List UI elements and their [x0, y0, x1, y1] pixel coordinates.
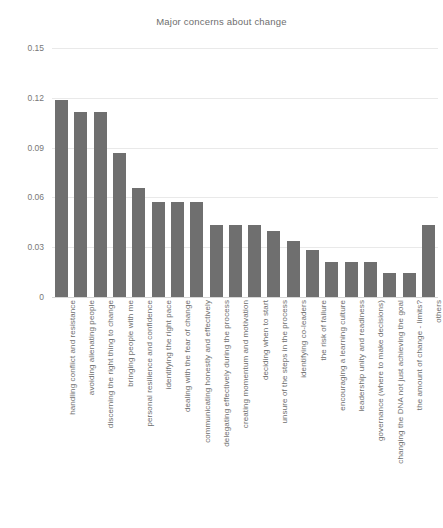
- chart-title: Major concerns about change: [0, 16, 443, 27]
- bar[interactable]: [306, 250, 319, 297]
- bar[interactable]: [152, 202, 165, 297]
- x-tick-label: the amount of change - limits?: [413, 300, 426, 524]
- x-tick-label: bringing people with me: [124, 300, 137, 524]
- x-tick-label: changing the DNA not just achieving the …: [394, 300, 407, 524]
- bar[interactable]: [55, 100, 68, 297]
- y-tick-label: 0.15: [27, 43, 44, 53]
- x-tick-label: creating momentum and motivation: [239, 300, 252, 524]
- x-tick-label: governance (where to make decisions): [374, 300, 387, 524]
- plot-area: 00.030.060.090.120.15: [52, 48, 438, 297]
- bar-chart: Major concerns about change 00.030.060.0…: [0, 0, 443, 528]
- x-tick-label: unsure of the steps in the process: [278, 300, 291, 524]
- bar[interactable]: [210, 225, 223, 297]
- x-tick-label: handling conflict and resistance: [66, 300, 79, 524]
- y-tick-label: 0.06: [27, 192, 44, 202]
- bar[interactable]: [229, 225, 242, 297]
- bar[interactable]: [171, 202, 184, 297]
- y-tick-label: 0.03: [27, 242, 44, 252]
- bar[interactable]: [267, 231, 280, 297]
- x-tick-label: the risk of failure: [317, 300, 330, 524]
- bar[interactable]: [403, 273, 416, 297]
- bar[interactable]: [287, 241, 300, 297]
- x-tick-label: avoiding alienating people: [85, 300, 98, 524]
- bar[interactable]: [190, 202, 203, 297]
- y-tick-label: 0.09: [27, 143, 44, 153]
- bar[interactable]: [422, 225, 435, 297]
- bar[interactable]: [132, 188, 145, 297]
- bar[interactable]: [248, 225, 261, 297]
- x-tick-label: identifying the right pace: [162, 300, 175, 524]
- x-tick-label: discerning the right thing to change: [104, 300, 117, 524]
- bar[interactable]: [364, 262, 377, 297]
- y-tick-label: 0: [39, 292, 44, 302]
- y-tick-label: 0.12: [27, 93, 44, 103]
- bar[interactable]: [325, 262, 338, 297]
- bar[interactable]: [74, 112, 87, 297]
- x-tick-label: encouraging a learning culture: [336, 300, 349, 524]
- x-tick-label: dealing with the fear of change: [181, 300, 194, 524]
- x-axis-labels: handling conflict and resistanceavoiding…: [52, 300, 438, 528]
- axis-baseline: [52, 297, 438, 298]
- bar[interactable]: [383, 273, 396, 297]
- bar[interactable]: [345, 262, 358, 297]
- x-tick-label: communicating honestly and effectively: [201, 300, 214, 524]
- bar[interactable]: [94, 112, 107, 297]
- x-tick-label: personal resilience and confidence: [143, 300, 156, 524]
- x-tick-label: delegating effectively during the proces…: [220, 300, 233, 524]
- bars: [52, 48, 438, 297]
- x-tick-label: others: [432, 300, 443, 524]
- x-tick-label: deciding when to start: [259, 300, 272, 524]
- x-tick-label: identifying co-leaders: [297, 300, 310, 524]
- bar[interactable]: [113, 153, 126, 297]
- x-tick-label: leadership unity and readiness: [355, 300, 368, 524]
